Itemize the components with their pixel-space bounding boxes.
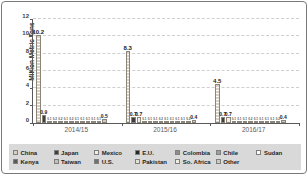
- legend-item-chile: Chile: [216, 150, 257, 156]
- bar-label-colombia-2014-15: 0.2: [58, 118, 62, 121]
- legend-swatch-sudan: [256, 150, 261, 155]
- y-tick-label-2: 2: [26, 100, 29, 106]
- bar-sudan-2015-16: 0.2: [159, 121, 164, 123]
- bar-pakistan-2016-17: 0.1: [270, 121, 275, 123]
- bar-chile-2015-16: 0.1: [153, 121, 158, 123]
- bar-u-s-2014-15: 0.1: [86, 121, 91, 123]
- legend-item-pakistan: Pakistan: [135, 159, 176, 165]
- legend-item-sudan: Sudan: [256, 150, 297, 156]
- x-tick-mark-3: [299, 123, 300, 126]
- x-tick-label-2014-15: 2014/15: [32, 126, 121, 133]
- legend-item-so-africa: So. Africa: [175, 159, 216, 165]
- bar-mexico-2016-17: 0.7: [226, 117, 231, 123]
- y-tick-label-0: 0: [26, 117, 29, 123]
- y-tick-label-10: 10: [22, 30, 29, 36]
- bar-label-e-u-2014-15: 0.2: [53, 118, 57, 121]
- legend-item-e-u: E.U.: [135, 150, 176, 156]
- bar-label-sudan-2015-16: 0.2: [159, 118, 163, 121]
- legend-label-taiwan: Taiwan: [61, 159, 81, 165]
- bar-colombia-2015-16: 0.1: [148, 121, 153, 123]
- legend-swatch-taiwan: [54, 159, 59, 164]
- bar-other-2015-16: 0.4: [192, 120, 197, 123]
- bar-label-taiwan-2015-16: 0.1: [170, 118, 174, 121]
- bar-label-colombia-2016-17: 0.1: [237, 118, 241, 121]
- bar-label-kenya-2016-17: 0.1: [254, 118, 258, 121]
- bar-taiwan-2014-15: 0.1: [80, 121, 85, 123]
- group-2015-16: 8.30.70.70.10.10.10.20.10.10.10.10.20.4: [123, 19, 213, 123]
- legend-item-other: Other: [216, 159, 257, 165]
- bar-mexico-2015-16: 0.7: [137, 117, 142, 123]
- legend-label-other: Other: [223, 159, 239, 165]
- bar-label-colombia-2015-16: 0.1: [148, 118, 152, 121]
- bar-label-kenya-2014-15: 0.1: [75, 118, 79, 121]
- bar-pakistan-2014-15: 0.1: [91, 121, 96, 123]
- legend-item-china: China: [13, 150, 54, 156]
- legend-swatch-u-s: [94, 159, 99, 164]
- legend-swatch-mexico: [94, 150, 99, 155]
- legend-item-u-s: U.S.: [94, 159, 135, 165]
- y-tick-label-12: 12: [22, 13, 29, 19]
- legend-swatch-other: [216, 159, 221, 164]
- chart-frame: Million Metric Tons 02468101210.20.90.10…: [1, 1, 307, 174]
- bar-so-africa-2015-16: 0.2: [186, 121, 191, 123]
- legend-swatch-kenya: [13, 159, 18, 164]
- legend-label-pakistan: Pakistan: [142, 159, 167, 165]
- y-tick-label-6: 6: [26, 65, 29, 71]
- bar-chile-2014-15: 0.1: [64, 121, 69, 123]
- bar-u-s-2016-17: 0.1: [265, 121, 270, 123]
- bar-label-kenya-2015-16: 0.1: [164, 118, 168, 121]
- bar-sudan-2016-17: 0.2: [248, 121, 253, 123]
- bar-label-u-s-2016-17: 0.1: [265, 118, 269, 121]
- bar-colombia-2016-17: 0.1: [237, 121, 242, 123]
- bar-label-sudan-2014-15: 0.2: [69, 118, 73, 121]
- plot-area: 02468101210.20.90.10.20.20.10.20.10.10.1…: [32, 19, 299, 124]
- bar-kenya-2016-17: 0.1: [254, 121, 259, 123]
- bar-label-china-2014-15: 10.2: [32, 29, 44, 35]
- legend-item-taiwan: Taiwan: [54, 159, 95, 165]
- bar-china-2016-17: 4.5: [215, 84, 220, 123]
- bar-taiwan-2016-17: 0.1: [259, 121, 264, 123]
- bar-japan-2015-16: 0.7: [131, 117, 136, 123]
- bar-sudan-2014-15: 0.2: [69, 121, 74, 123]
- legend-swatch-chile: [216, 150, 221, 155]
- bar-so-africa-2014-15: 0.1: [97, 121, 102, 123]
- bar-e-u-2016-17: 0.1: [232, 121, 237, 123]
- bar-label-pakistan-2015-16: 0.1: [181, 118, 185, 121]
- legend-label-so-africa: So. Africa: [183, 159, 211, 165]
- legend-swatch-china: [13, 150, 18, 155]
- bar-label-chile-2015-16: 0.1: [153, 118, 157, 121]
- x-tick-label-2016-17: 2016/17: [209, 126, 298, 133]
- legend-item-japan: Japan: [54, 150, 95, 156]
- group-2016-17: 4.50.70.70.10.10.10.20.10.10.10.10.20.4: [212, 19, 302, 123]
- bar-label-u-s-2015-16: 0.1: [175, 118, 179, 121]
- legend-label-mexico: Mexico: [102, 150, 122, 156]
- bar-label-chile-2014-15: 0.1: [64, 118, 68, 121]
- bar-u-s-2015-16: 0.1: [175, 121, 180, 123]
- bar-mexico-2014-15: 0.1: [47, 121, 52, 123]
- x-axis-labels: 2014/152015/162016/17: [32, 126, 298, 133]
- bar-so-africa-2016-17: 0.2: [276, 121, 281, 123]
- legend-label-chile: Chile: [223, 150, 238, 156]
- bar-label-other-2014-15: 0.5: [101, 114, 108, 119]
- legend-label-kenya: Kenya: [21, 159, 39, 165]
- legend-swatch-so-africa: [175, 159, 180, 164]
- bar-groups: 10.20.90.10.20.20.10.20.10.10.10.10.10.5…: [33, 19, 299, 123]
- bar-label-u-s-2014-15: 0.1: [86, 118, 90, 121]
- legend-swatch-e-u: [135, 150, 140, 155]
- legend: ChinaJapanMexicoE.U.ColombiaChileSudanKe…: [9, 144, 301, 170]
- legend-swatch-colombia: [175, 150, 180, 155]
- bar-pakistan-2015-16: 0.1: [181, 121, 186, 123]
- bar-label-pakistan-2014-15: 0.1: [91, 118, 95, 121]
- bar-label-mexico-2014-15: 0.1: [47, 118, 51, 121]
- bar-taiwan-2015-16: 0.1: [170, 121, 175, 123]
- bar-japan-2014-15: 0.9: [42, 115, 47, 123]
- bar-e-u-2014-15: 0.2: [53, 121, 58, 123]
- bar-japan-2016-17: 0.7: [221, 117, 226, 123]
- group-2014-15: 10.20.90.10.20.20.10.20.10.10.10.10.10.5: [33, 19, 123, 123]
- bar-label-sudan-2016-17: 0.2: [248, 118, 252, 121]
- bar-colombia-2014-15: 0.2: [58, 121, 63, 123]
- bar-label-taiwan-2014-15: 0.1: [80, 118, 84, 121]
- bar-label-china-2015-16: 8.3: [124, 45, 132, 51]
- bar-label-other-2016-17: 0.4: [280, 115, 287, 120]
- y-tick-label-4: 4: [26, 82, 29, 88]
